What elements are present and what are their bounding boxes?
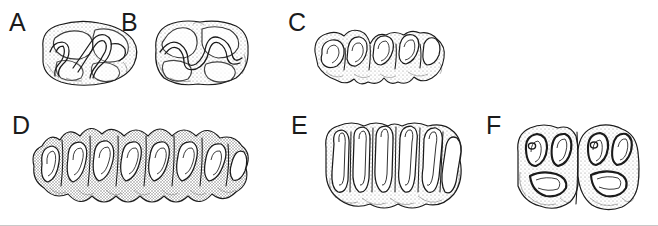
panel-label-f: F: [486, 113, 501, 138]
panel-label-e: E: [291, 113, 308, 138]
panel-label-c: C: [288, 10, 306, 35]
specimen-f: [512, 120, 644, 216]
specimen-b: [148, 16, 256, 92]
specimen-c: [310, 22, 455, 92]
specimen-a: [33, 18, 143, 90]
specimen-e: [318, 118, 468, 216]
specimen-d: [28, 118, 256, 214]
panel-label-a: A: [9, 10, 26, 35]
figure-plate: A B C D E F: [0, 0, 658, 226]
